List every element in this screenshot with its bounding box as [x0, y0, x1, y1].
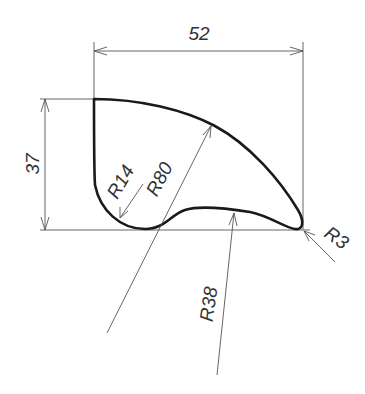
r14-label: R14: [103, 161, 139, 202]
r80-label: R80: [142, 158, 177, 199]
r38-label: R38: [196, 285, 222, 323]
r3-label: R3: [321, 222, 353, 253]
height-dimension: 37: [22, 99, 49, 230]
r80-dimension: R80: [107, 126, 211, 333]
width-dimension: 52: [94, 23, 303, 55]
technical-drawing: 52 37 R14 R80 R38 R3: [0, 0, 365, 394]
width-label: 52: [188, 23, 210, 44]
r38-dimension: R38: [196, 213, 237, 375]
r14-dimension: R14: [103, 161, 143, 218]
r3-dimension: R3: [304, 222, 353, 262]
height-label: 37: [22, 152, 43, 175]
